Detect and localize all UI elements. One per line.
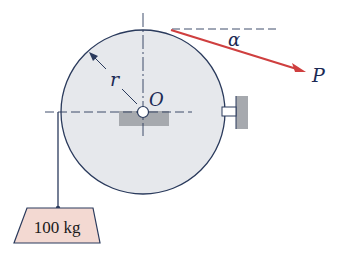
center-label: O [149, 89, 164, 110]
pulley-diagram: r O α P 100 kg [0, 0, 353, 262]
brake-shoe [222, 107, 236, 116]
force-arrowhead-icon [292, 63, 306, 72]
force-label: P [311, 64, 326, 86]
brake-wall [236, 96, 248, 129]
angle-label: α [228, 29, 240, 50]
mass-label: 100 kg [34, 218, 81, 237]
center-pin [138, 107, 149, 118]
